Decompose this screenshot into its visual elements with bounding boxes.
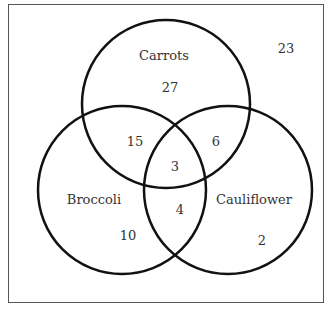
carrots-circle — [82, 20, 250, 188]
cauliflower-only-value: 2 — [258, 233, 266, 248]
broccoli-only-value: 10 — [120, 228, 137, 243]
all-three-value: 3 — [171, 159, 179, 174]
broccoli-label: Broccoli — [67, 192, 121, 207]
broccoli-circle — [38, 106, 206, 274]
carrots-label: Carrots — [139, 48, 189, 63]
carrots-broccoli-value: 15 — [127, 134, 144, 149]
cauliflower-label: Cauliflower — [216, 192, 292, 207]
carrots-only-value: 27 — [162, 80, 179, 95]
outside-value: 23 — [278, 41, 295, 56]
broccoli-cauliflower-value: 4 — [176, 202, 184, 217]
cauliflower-circle — [144, 106, 312, 274]
carrots-cauliflower-value: 6 — [212, 134, 220, 149]
